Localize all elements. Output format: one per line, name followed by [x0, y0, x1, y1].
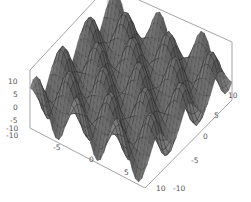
y-tick-0: 0	[203, 132, 208, 141]
y-tick-5: 5	[214, 111, 219, 120]
surface-mesh	[30, 0, 232, 182]
x-tick-neg10: -10	[6, 131, 18, 140]
y-tick-neg10: -10	[173, 184, 185, 193]
z-tick-10: 10	[8, 77, 18, 86]
surface-plot: 10 5 0 -5 -10 -10 -5 0 5 10 -10 -5 0 5 1…	[0, 0, 251, 202]
x-tick-10: 10	[156, 184, 166, 193]
z-tick-0: 0	[13, 103, 18, 112]
z-tick-5: 5	[13, 90, 18, 99]
x-tick-5: 5	[124, 168, 129, 177]
x-tick-0: 0	[89, 155, 94, 164]
x-tick-neg5: -5	[53, 143, 61, 152]
y-tick-neg5: -5	[191, 156, 199, 165]
y-tick-10: 10	[228, 91, 238, 100]
